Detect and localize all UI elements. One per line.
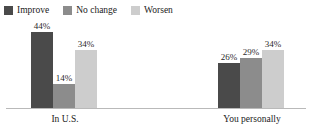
bar-in-us-worsen[interactable] <box>75 50 97 108</box>
bar-group-in-us-bars: 44% 14% 34% <box>18 22 112 108</box>
legend-item-no-change: No change <box>63 5 117 15</box>
legend-label-worsen: Worsen <box>144 5 173 15</box>
bar-in-us-improve[interactable] <box>31 32 53 108</box>
chart-legend: Improve No change Worsen <box>4 3 187 17</box>
legend-swatch-improve <box>4 6 13 15</box>
legend-swatch-no-change <box>63 6 72 15</box>
bar-group-you-personally-bars: 26% 29% 34% <box>198 22 306 108</box>
x-axis-label-in-us: In U.S. <box>18 114 112 125</box>
bar-value-in-us-worsen: 34% <box>73 39 99 49</box>
bar-group-you-personally: 26% 29% 34% You personally <box>198 22 306 132</box>
bar-value-in-us-no-change: 14% <box>51 73 77 83</box>
bar-you-personally-improve[interactable] <box>218 63 240 108</box>
bar-in-us-no-change[interactable] <box>53 84 75 108</box>
legend-label-improve: Improve <box>17 5 49 15</box>
x-axis-label-you-personally: You personally <box>198 114 306 125</box>
bar-group-in-us: 44% 14% 34% In U.S. <box>18 22 112 132</box>
legend-label-no-change: No change <box>76 5 117 15</box>
bar-value-in-us-improve: 44% <box>29 21 55 31</box>
chart-plot-area: 44% 14% 34% In U.S. 26% 29% <box>0 22 312 138</box>
legend-item-improve: Improve <box>4 5 49 15</box>
legend-item-worsen: Worsen <box>131 5 173 15</box>
bar-you-personally-no-change[interactable] <box>240 58 262 108</box>
bar-value-you-personally-worsen: 34% <box>260 39 286 49</box>
bar-you-personally-worsen[interactable] <box>262 50 284 108</box>
legend-swatch-worsen <box>131 6 140 15</box>
